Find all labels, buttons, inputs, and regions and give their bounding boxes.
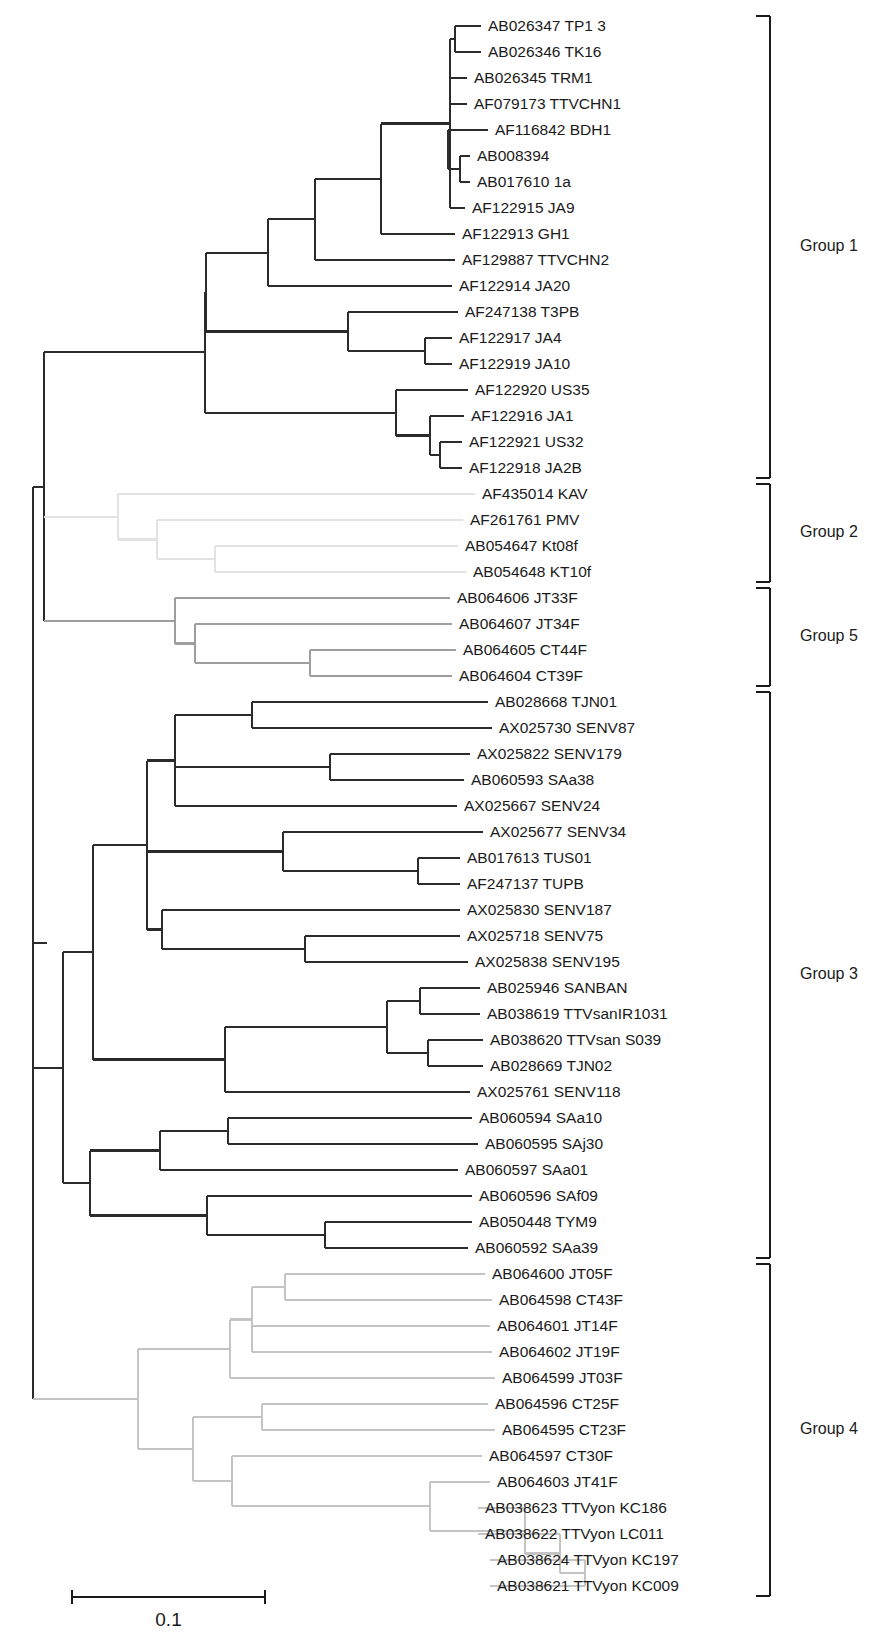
taxon-label-row-25: AB064605 CT44F <box>463 641 587 658</box>
taxon-label-row-1: AB026347 TP1 3 <box>488 17 606 34</box>
taxon-label-row-43: AB060594 SAa10 <box>479 1109 603 1126</box>
taxon-label-row-9: AF122913 GH1 <box>462 225 570 242</box>
taxon-label-row-40: AB038620 TTVsan S039 <box>490 1031 661 1048</box>
taxon-label-row-33: AB017613 TUS01 <box>467 849 592 866</box>
taxon-label-row-58: AB038623 TTVyon KC186 <box>485 1499 667 1516</box>
taxon-label-row-12: AF247138 T3PB <box>465 303 579 320</box>
taxon-label-row-14: AF122919 JA10 <box>459 355 571 372</box>
taxon-label-row-42: AX025761 SENV118 <box>477 1083 621 1100</box>
group-label-group4: Group 4 <box>800 1420 858 1437</box>
group-label-group3: Group 3 <box>800 965 858 982</box>
taxon-label-row-3: AB026345 TRM1 <box>474 69 593 86</box>
scale-bar-label: 0.1 <box>155 1609 181 1630</box>
taxon-label-row-37: AX025838 SENV195 <box>475 953 620 970</box>
taxon-label-row-55: AB064595 CT23F <box>502 1421 626 1438</box>
taxon-label-row-15: AF122920 US35 <box>475 381 590 398</box>
taxon-label-row-32: AX025677 SENV34 <box>490 823 627 840</box>
taxon-label-row-35: AX025830 SENV187 <box>467 901 612 918</box>
taxon-label-row-39: AB038619 TTVsanIR1031 <box>487 1005 668 1022</box>
taxon-label-row-10: AF129887 TTVCHN2 <box>462 251 609 268</box>
taxon-label-row-11: AF122914 JA20 <box>459 277 571 294</box>
taxon-label-row-20: AF261761 PMV <box>470 511 580 528</box>
taxon-label-row-7: AB017610 1a <box>477 173 571 190</box>
taxon-label-row-44: AB060595 SAj30 <box>485 1135 603 1152</box>
taxon-label-row-19: AF435014 KAV <box>482 485 588 502</box>
taxon-label-row-41: AB028669 TJN02 <box>490 1057 612 1074</box>
taxon-label-row-13: AF122917 JA4 <box>459 329 562 346</box>
taxon-label-row-17: AF122921 US32 <box>469 433 584 450</box>
taxon-label-row-22: AB054648 KT10f <box>473 563 592 580</box>
taxon-label-row-21: AB054647 Kt08f <box>465 537 579 554</box>
taxon-label-row-60: AB038624 TTVyon KC197 <box>497 1551 679 1568</box>
taxon-label-row-34: AF247137 TUPB <box>467 875 584 892</box>
taxon-label-row-52: AB064602 JT19F <box>499 1343 620 1360</box>
taxon-label-row-8: AF122915 JA9 <box>472 199 575 216</box>
taxon-label-row-38: AB025946 SANBAN <box>487 979 627 996</box>
taxon-label-row-31: AX025667 SENV24 <box>464 797 601 814</box>
taxon-label-row-36: AX025718 SENV75 <box>467 927 603 944</box>
taxon-label-row-59: AB038622 TTVyon LC011 <box>485 1525 664 1542</box>
taxon-label-row-30: AB060593 SAa38 <box>471 771 594 788</box>
taxon-label-row-28: AX025730 SENV87 <box>499 719 635 736</box>
taxon-label-row-5: AF116842 BDH1 <box>495 121 611 138</box>
taxon-label-row-50: AB064598 CT43F <box>499 1291 623 1308</box>
taxon-label-row-46: AB060596 SAf09 <box>479 1187 598 1204</box>
taxon-label-row-48: AB060592 SAa39 <box>475 1239 598 1256</box>
taxon-label-row-27: AB028668 TJN01 <box>495 693 617 710</box>
group-label-group1: Group 1 <box>800 237 858 254</box>
taxon-label-row-47: AB050448 TYM9 <box>479 1213 597 1230</box>
group-label-group5: Group 5 <box>800 627 858 644</box>
group-label-group2: Group 2 <box>800 523 858 540</box>
taxon-label-row-54: AB064596 CT25F <box>495 1395 619 1412</box>
taxon-label-row-45: AB060597 SAa01 <box>465 1161 588 1178</box>
taxon-label-row-53: AB064599 JT03F <box>502 1369 623 1386</box>
taxon-label-row-24: AB064607 JT34F <box>459 615 580 632</box>
taxon-label-row-61: AB038621 TTVyon KC009 <box>497 1577 679 1594</box>
taxon-label-row-29: AX025822 SENV179 <box>477 745 622 762</box>
tree-canvas: AB026347 TP1 3AB026346 TK16AB026345 TRM1… <box>0 0 882 1642</box>
taxon-label-row-16: AF122916 JA1 <box>471 407 574 424</box>
taxon-label-row-51: AB064601 JT14F <box>497 1317 618 1334</box>
taxon-label-row-49: AB064600 JT05F <box>492 1265 613 1282</box>
taxon-label-row-4: AF079173 TTVCHN1 <box>474 95 621 112</box>
taxon-label-row-56: AB064597 CT30F <box>489 1447 613 1464</box>
taxon-label-row-23: AB064606 JT33F <box>457 589 578 606</box>
taxon-label-row-57: AB064603 JT41F <box>497 1473 618 1490</box>
phylogenetic-tree-figure: AB026347 TP1 3AB026346 TK16AB026345 TRM1… <box>0 0 882 1642</box>
taxon-label-row-6: AB008394 <box>477 147 550 164</box>
taxon-label-row-2: AB026346 TK16 <box>488 43 601 60</box>
taxon-label-row-26: AB064604 CT39F <box>459 667 583 684</box>
taxon-label-row-18: AF122918 JA2B <box>469 459 582 476</box>
